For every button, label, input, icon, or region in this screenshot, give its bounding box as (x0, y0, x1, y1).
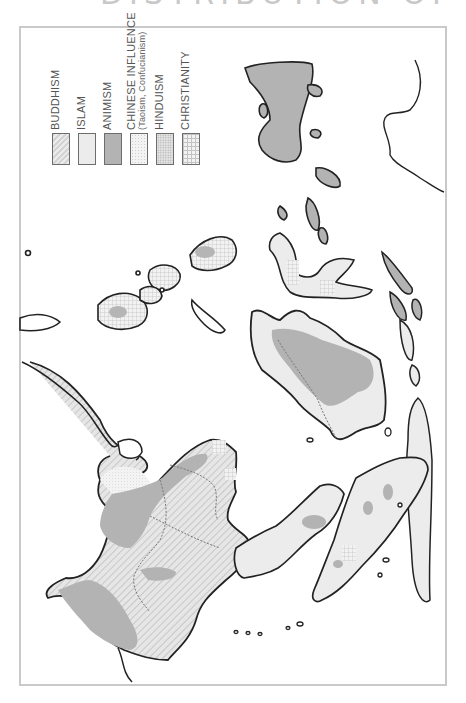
hainan (118, 439, 142, 458)
legend-label: CHINESE INFLUENCE (Taoism, Confucianism) (126, 15, 146, 130)
legend-item-islam: ISLAM (76, 30, 96, 170)
animism-swatch-icon (104, 133, 122, 165)
islam-swatch-icon (78, 133, 96, 165)
legend-item-christianity: CHRISTIANITY (180, 30, 200, 170)
legend-label: ISLAM (76, 30, 96, 130)
chinese-influence-swatch-icon (130, 133, 148, 165)
legend-label: ANIMISM (102, 30, 122, 130)
borneo (251, 311, 386, 440)
legend-label-main: CHINESE INFLUENCE (125, 12, 137, 130)
legend-label: CHRISTIANITY (180, 30, 200, 130)
new-guinea (245, 62, 340, 244)
philippines (20, 237, 236, 333)
christianity-swatch-icon (182, 133, 200, 165)
lesser-sunda (382, 252, 432, 602)
indochina (30, 362, 248, 660)
legend-sublabel: (Taoism, Confucianism) (137, 15, 147, 130)
australia-coast (384, 60, 444, 192)
sulawesi (269, 233, 372, 299)
legend-item-buddhism: BUDDHISM (50, 30, 70, 170)
legend-label: BUDDHISM (50, 30, 70, 130)
legend: BUDDHISM ISLAM ANIMISM CHINESE INFLUENCE… (50, 30, 215, 170)
legend-item-chinese-influence: CHINESE INFLUENCE (Taoism, Confucianism) (128, 30, 148, 170)
hinduism-swatch-icon (156, 133, 174, 165)
buddhism-swatch-icon (52, 133, 70, 165)
legend-label: HINDUISM (154, 30, 174, 130)
legend-item-hinduism: HINDUISM (154, 30, 174, 170)
legend-item-animism: ANIMISM (102, 30, 122, 170)
